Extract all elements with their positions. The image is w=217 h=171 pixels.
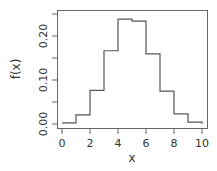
plot-frame (58, 11, 208, 129)
x-tick-label: 6 (143, 137, 150, 150)
x-axis-label: x (128, 151, 135, 165)
y-axis: 0.000.100.20 (37, 14, 58, 136)
x-tick-label: 0 (59, 137, 66, 150)
x-tick-label: 8 (171, 137, 178, 150)
y-tick-label: 0.00 (37, 112, 50, 137)
chart: 0.000.100.20 0246810 x f(x) (0, 0, 217, 171)
x-tick-label: 4 (115, 137, 122, 150)
x-axis: 0246810 (59, 129, 210, 151)
y-axis-label: f(x) (9, 59, 23, 80)
step-line (62, 19, 202, 124)
y-tick-label: 0.20 (37, 24, 50, 49)
x-tick-label: 2 (87, 137, 94, 150)
x-tick-label: 10 (195, 137, 209, 150)
y-tick-label: 0.10 (37, 68, 50, 93)
